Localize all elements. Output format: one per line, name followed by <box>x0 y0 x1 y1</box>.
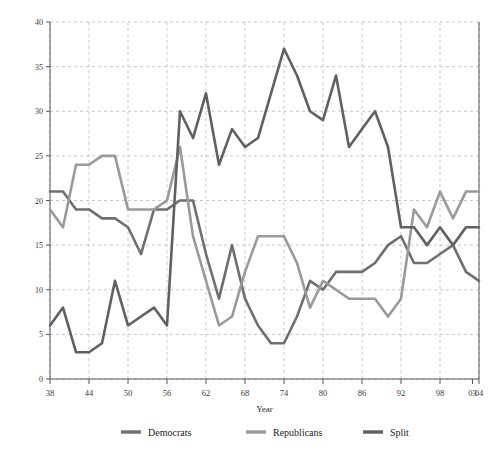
x-axis: 38445056626874808692980304 <box>46 22 484 398</box>
data-series <box>50 49 479 352</box>
y-tick-label: 40 <box>35 18 43 27</box>
x-tick-label: 74 <box>280 388 289 398</box>
legend-label-democrats: Democrats <box>148 427 191 438</box>
series-line-split <box>50 49 479 352</box>
chart-canvas: 0510152025303540 38445056626874808692980… <box>0 0 501 458</box>
y-tick-label: 20 <box>35 197 43 206</box>
series-line-republicans <box>50 147 479 326</box>
x-tick-label: 98 <box>436 388 445 398</box>
line-chart: 0510152025303540 38445056626874808692980… <box>0 0 501 458</box>
x-tick-label: 92 <box>397 388 406 398</box>
y-tick-label: 5 <box>39 330 43 339</box>
x-tick-label: 80 <box>319 388 328 398</box>
x-tick-label: 44 <box>85 388 94 398</box>
x-axis-title: Year <box>256 404 273 414</box>
y-tick-label: 30 <box>35 107 43 116</box>
x-tick-label: 62 <box>202 388 211 398</box>
y-tick-label: 0 <box>39 375 43 384</box>
series-line-democrats <box>50 192 479 344</box>
x-tick-label: 68 <box>241 388 250 398</box>
chart-legend: DemocratsRepublicansSplit <box>121 427 409 438</box>
y-axis: 0510152025303540 <box>35 18 50 384</box>
legend-label-republicans: Republicans <box>273 427 323 438</box>
y-tick-label: 15 <box>35 241 43 250</box>
grid-lines <box>50 22 479 379</box>
x-tick-label: 56 <box>163 388 172 398</box>
x-tick-label: 04 <box>475 388 484 398</box>
x-tick-label: 86 <box>358 388 367 398</box>
x-tick-label: 38 <box>46 388 55 398</box>
y-tick-label: 25 <box>35 152 43 161</box>
y-tick-label: 35 <box>35 63 43 72</box>
legend-label-split: Split <box>390 427 409 438</box>
x-tick-label: 50 <box>124 388 133 398</box>
y-tick-label: 10 <box>35 286 43 295</box>
